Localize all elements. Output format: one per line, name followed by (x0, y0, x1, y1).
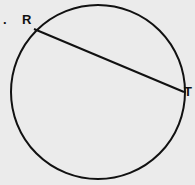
chord-rt (34, 29, 184, 92)
problem-number-dot: . (3, 12, 7, 27)
circle-diagram (0, 0, 195, 185)
point-label-r: R (22, 12, 31, 27)
point-label-t: T (184, 84, 192, 99)
